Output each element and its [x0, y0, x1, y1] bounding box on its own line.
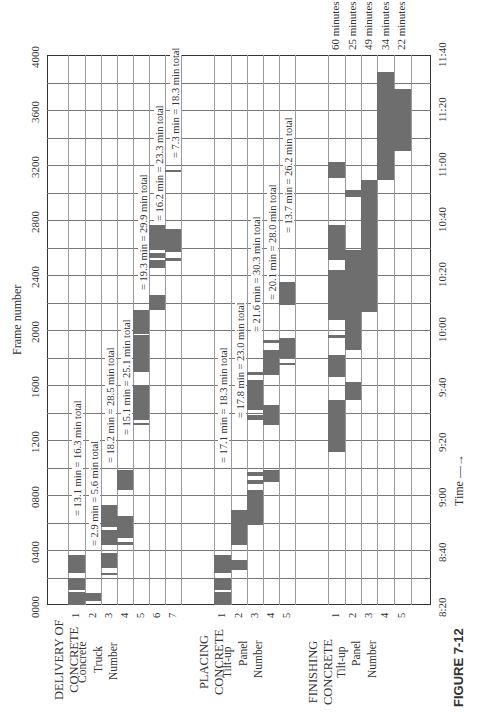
- arrow-right-icon: —→: [452, 454, 466, 478]
- activity-bar: [263, 405, 279, 425]
- time-tick-label: 11:40: [436, 42, 448, 67]
- row-number: 5: [281, 613, 292, 618]
- row-number: 2: [347, 613, 358, 618]
- time-tick-label: 9:20: [436, 432, 448, 452]
- duration-annotation: = 17.1 min = 18.3 min total: [218, 345, 229, 465]
- row-number: 3: [103, 613, 114, 618]
- frame-tick-label: 0800: [29, 486, 41, 508]
- row-number: 4: [265, 613, 276, 618]
- time-tick-label: 10:40: [436, 207, 448, 232]
- time-tick-label: 9:40: [436, 377, 448, 397]
- duration-annotation: = 17.8 min = 23.0 min total: [235, 300, 246, 420]
- frame-tick-label: 0000: [29, 596, 41, 618]
- activity-bar: [247, 380, 263, 410]
- activity-bar: [101, 553, 117, 568]
- activity-bar: [345, 382, 361, 400]
- finishing-duration-label: 22 minutes: [395, 1, 407, 50]
- activity-bar: [345, 250, 361, 310]
- frame-tick-label: 1200: [29, 431, 41, 453]
- row-number: 3: [363, 613, 374, 618]
- activity-bar: [133, 335, 149, 372]
- time-tick-label: 8:40: [436, 542, 448, 562]
- activity-bar: [328, 355, 345, 377]
- row-number: 1: [330, 613, 341, 618]
- time-tick-label: 11:20: [436, 97, 448, 122]
- activity-bar: [328, 162, 345, 178]
- activity-bar: [377, 72, 394, 180]
- activity-bar: [165, 229, 181, 252]
- duration-annotation: = 19.3 min = 29.9 min total: [138, 172, 149, 292]
- time-tick-label: 10:00: [436, 317, 448, 342]
- sublabel-tiltup: Tilt-up: [221, 646, 233, 678]
- column-line: [361, 55, 362, 605]
- frame-tick-label: 1600: [29, 376, 41, 398]
- activity-bar: [149, 260, 165, 268]
- row-number: 1: [216, 613, 227, 618]
- finishing-duration-label: 25 minutes: [346, 1, 358, 50]
- activity-bar: [263, 340, 279, 343]
- frame-tick-label: 0400: [29, 541, 41, 563]
- gridline: [47, 138, 431, 139]
- frame-tick-label: 4000: [29, 46, 41, 68]
- activity-bar: [149, 253, 165, 258]
- sublabel-tiltup-finishing: Tilt-up: [335, 646, 347, 678]
- activity-bar: [328, 225, 345, 260]
- activity-bar: [214, 578, 231, 590]
- frame-tick-label: 2000: [29, 321, 41, 343]
- activity-bar: [117, 470, 133, 490]
- gridline: [47, 110, 431, 111]
- activity-bar: [263, 350, 279, 375]
- activity-bar: [165, 170, 181, 172]
- time-axis-title: Time —→: [452, 454, 467, 506]
- time-tick-label: 8:20: [436, 597, 448, 617]
- activity-bar: [133, 385, 149, 420]
- activity-bar: [247, 372, 263, 375]
- activity-bar: [279, 282, 295, 305]
- duration-annotation: = 2.9 min = 5.6 min total: [89, 439, 100, 548]
- activity-bar: [214, 592, 231, 605]
- frame-tick-label: 3200: [29, 156, 41, 178]
- gridline: [47, 550, 431, 551]
- frame-tick-label: 2400: [29, 266, 41, 288]
- activity-bar: [361, 180, 377, 312]
- activity-bar: [214, 555, 231, 573]
- activity-bar: [68, 592, 85, 605]
- time-tick-label: 10:20: [436, 262, 448, 287]
- activity-bar: [328, 335, 345, 338]
- column-line: [295, 55, 296, 605]
- activity-bar: [117, 516, 133, 538]
- time-tick-label: 9:00: [436, 487, 448, 507]
- gridline: [47, 83, 431, 84]
- group-label-finishing: FINISHING CONCRETE: [306, 639, 336, 705]
- column-line: [328, 55, 329, 605]
- duration-annotation: = 21.6 min = 30.3 min total: [251, 214, 262, 334]
- activity-bar: [149, 295, 165, 310]
- finishing-duration-label: 34 minutes: [379, 1, 391, 50]
- frame-axis-title: Frame number: [10, 285, 25, 355]
- activity-bar: [247, 490, 263, 525]
- finishing-duration-label: 60 minutes: [329, 1, 341, 50]
- activity-bar: [165, 258, 181, 261]
- row-number: 2: [233, 613, 244, 618]
- sublabel-concrete: Concrete: [76, 641, 88, 683]
- column-line: [149, 55, 150, 605]
- activity-bar: [133, 310, 149, 334]
- activity-bar: [279, 338, 295, 358]
- row-number: 2: [87, 613, 98, 618]
- row-number: 5: [396, 613, 407, 618]
- activity-bar: [85, 593, 101, 601]
- column-line: [279, 55, 280, 605]
- activity-bar: [133, 423, 149, 425]
- activity-bar: [117, 542, 133, 545]
- activity-bar: [231, 510, 247, 545]
- activity-bar: [247, 415, 263, 420]
- gridline: [47, 578, 431, 579]
- activity-bar: [328, 270, 345, 320]
- activity-bar: [394, 89, 411, 151]
- activity-bar: [68, 555, 85, 573]
- activity-bar: [247, 480, 263, 484]
- sublabel-number-finishing: Number: [366, 640, 378, 678]
- frame-tick-label: 2800: [29, 211, 41, 233]
- row-number: 5: [135, 613, 146, 618]
- activity-bar: [68, 578, 85, 590]
